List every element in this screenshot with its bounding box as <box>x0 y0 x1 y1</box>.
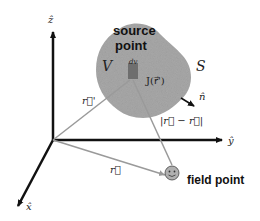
field-point-smiley-icon <box>165 166 179 180</box>
electromagnetics-diagram: ẑ ŷ x̂ V S n̂ source point dv J(r⃗') r⃗'… <box>0 0 260 221</box>
normal-vector <box>181 98 194 106</box>
current-density-label: J(r⃗') <box>145 75 165 86</box>
difference-label: |r⃗ − r⃗| <box>160 115 203 127</box>
normal-label: n̂ <box>199 91 205 102</box>
y-axis-label: ŷ <box>227 135 234 146</box>
r-vector <box>53 140 165 175</box>
source-point-label-line1: source <box>113 23 156 38</box>
x-axis-label: x̂ <box>26 201 32 212</box>
r-label: r⃗ <box>110 164 121 175</box>
field-point-label: field point <box>187 173 244 187</box>
r-prime-label: r⃗' <box>82 95 96 106</box>
volume-element-label: dv <box>129 58 137 66</box>
z-axis-label: ẑ <box>47 14 54 25</box>
source-point-label-line2: point <box>115 38 147 53</box>
surface-label: S <box>196 58 206 74</box>
x-axis <box>18 140 53 206</box>
